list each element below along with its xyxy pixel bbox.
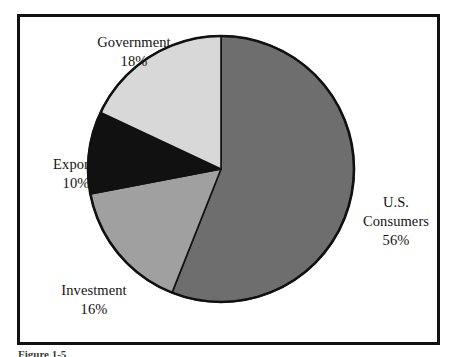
figure-caption: Figure 1-5: [18, 348, 438, 357]
figure-frame: Government 18% Exports 10% Investment 16…: [17, 14, 440, 345]
pie-label-investment: Investment 16%: [34, 281, 154, 319]
pie-label-us-consumers: U.S. Consumers 56%: [350, 193, 442, 250]
pie-label-government-percent: 18%: [68, 52, 200, 71]
figure-root: Government 18% Exports 10% Investment 16…: [0, 0, 453, 357]
pie-label-investment-percent: 16%: [34, 300, 154, 319]
pie-label-exports: Exports 10%: [28, 155, 124, 193]
pie-slice-group: [88, 36, 354, 302]
pie-chart: Government 18% Exports 10% Investment 16…: [20, 17, 443, 348]
pie-label-investment-name: Investment: [34, 281, 154, 300]
pie-label-us-consumers-name-line2: Consumers: [350, 212, 442, 231]
pie-label-exports-name: Exports: [28, 155, 124, 174]
pie-label-government: Government 18%: [68, 33, 200, 71]
pie-label-government-name: Government: [68, 33, 200, 52]
pie-label-us-consumers-name-line1: U.S.: [350, 193, 442, 212]
pie-label-exports-percent: 10%: [28, 174, 124, 193]
pie-label-us-consumers-percent: 56%: [350, 231, 442, 250]
